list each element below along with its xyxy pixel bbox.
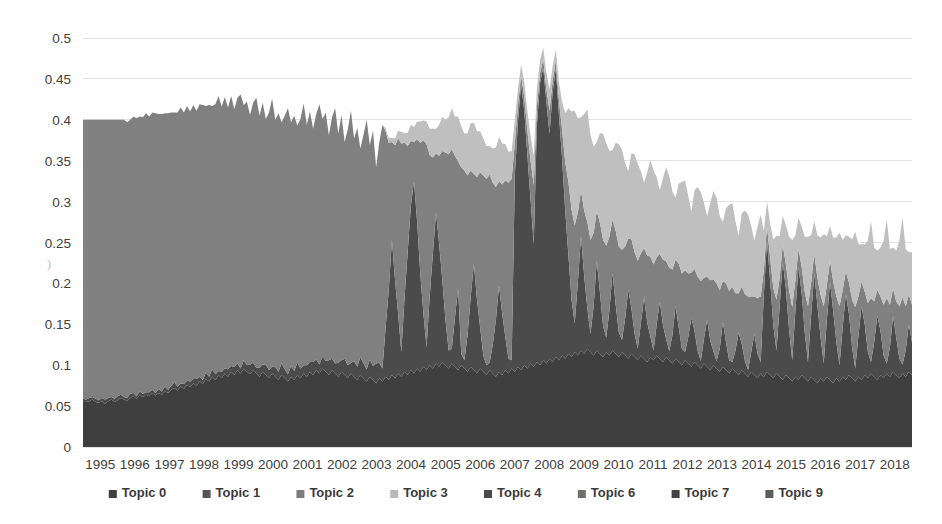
legend-swatch-icon: [672, 490, 680, 498]
legend-swatch-icon: [765, 490, 773, 498]
y-tick-0.45: 0.45: [45, 72, 71, 87]
x-tick-2008: 2008: [534, 457, 564, 472]
x-tick-2015: 2015: [776, 457, 806, 472]
chart-container: 00.050.10.150.20.250.30.350.40.450.5 199…: [0, 0, 942, 524]
legend-label: Topic 7: [685, 485, 730, 500]
y-tick-0.1: 0.1: [52, 358, 71, 373]
x-tick-2014: 2014: [742, 457, 773, 472]
x-tick-1999: 1999: [223, 457, 253, 472]
x-tick-2001: 2001: [292, 457, 322, 472]
x-tick-1998: 1998: [189, 457, 219, 472]
y-tick-0.35: 0.35: [45, 154, 71, 169]
x-tick-2009: 2009: [569, 457, 599, 472]
x-tick-2017: 2017: [845, 457, 875, 472]
y-tick-0.4: 0.4: [52, 113, 71, 128]
y-tick-0: 0: [63, 440, 71, 455]
legend-swatch-icon: [484, 490, 492, 498]
x-tick-2003: 2003: [362, 457, 392, 472]
y-tick-0.25: 0.25: [45, 236, 71, 251]
x-tick-2006: 2006: [465, 457, 495, 472]
x-tick-2012: 2012: [672, 457, 702, 472]
legend-label: Topic 1: [216, 485, 261, 500]
legend-label: Topic 9: [778, 485, 823, 500]
scan-artifact-mark: ): [47, 257, 51, 271]
legend-label: Topic 2: [309, 485, 354, 500]
x-tick-2018: 2018: [880, 457, 910, 472]
legend-swatch-icon: [390, 490, 398, 498]
legend-swatch-icon: [578, 490, 586, 498]
legend-label: Topic 0: [122, 485, 167, 500]
x-tick-2010: 2010: [603, 457, 633, 472]
legend-swatch-icon: [109, 490, 117, 498]
x-tick-1997: 1997: [154, 457, 184, 472]
legend-swatch-icon: [296, 490, 304, 498]
x-tick-2004: 2004: [396, 457, 427, 472]
legend-swatch-icon: [203, 490, 211, 498]
x-tick-2005: 2005: [431, 457, 461, 472]
y-tick-0.3: 0.3: [52, 195, 71, 210]
x-tick-2000: 2000: [258, 457, 288, 472]
x-tick-2002: 2002: [327, 457, 357, 472]
x-tick-2007: 2007: [500, 457, 530, 472]
x-tick-1995: 1995: [85, 457, 115, 472]
y-tick-0.15: 0.15: [45, 317, 71, 332]
y-tick-0.5: 0.5: [52, 31, 71, 46]
x-tick-1996: 1996: [120, 457, 150, 472]
legend-label: Topic 6: [591, 485, 636, 500]
legend-label: Topic 3: [403, 485, 448, 500]
x-tick-2016: 2016: [811, 457, 841, 472]
stacked-area-chart: 00.050.10.150.20.250.30.350.40.450.5 199…: [0, 0, 942, 524]
x-tick-2011: 2011: [638, 457, 667, 472]
x-tick-2013: 2013: [707, 457, 737, 472]
y-tick-0.2: 0.2: [52, 276, 71, 291]
y-tick-0.05: 0.05: [45, 399, 71, 414]
legend-label: Topic 4: [497, 485, 542, 500]
